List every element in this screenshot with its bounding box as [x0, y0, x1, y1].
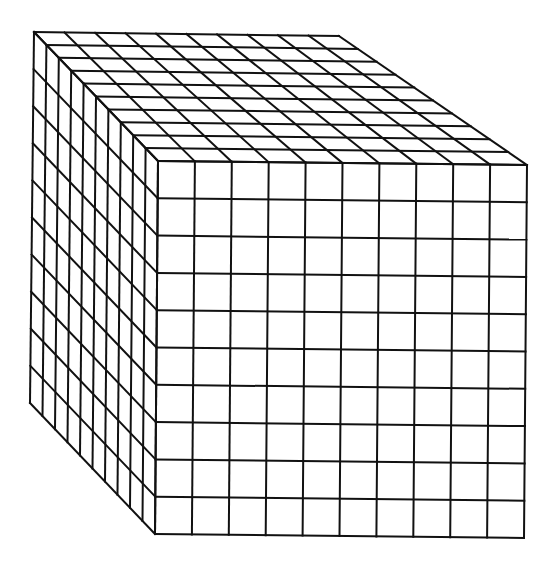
top-grid-line [108, 109, 451, 113]
cube-diagram [0, 0, 555, 568]
cube-grid-graphic [0, 0, 555, 568]
top-grid-line [121, 122, 471, 126]
top-grid-line [133, 135, 489, 139]
top-grid-line [146, 148, 509, 152]
top-grid-line [96, 97, 433, 101]
front-face [155, 161, 527, 538]
